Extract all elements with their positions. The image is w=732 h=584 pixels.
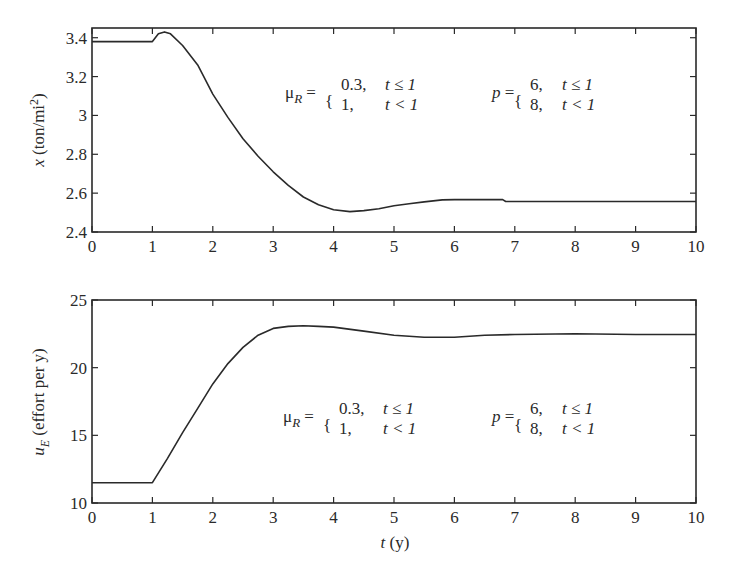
top-plot-y-tick-label: 3.4 [66,29,88,48]
top-plot-y-tick-label: 2.4 [66,223,88,242]
svg-text:8,: 8, [530,95,543,114]
top-plot-x-tick-label: 2 [209,237,218,256]
bottom-plot-y-tick-label: 25 [70,291,87,310]
svg-text:0.3,: 0.3, [339,399,365,418]
svg-text:t ≤ 1: t ≤ 1 [562,399,593,418]
bottom-plot-x-tick-label: 4 [329,508,338,527]
top-plot-x-tick-label: 0 [88,237,97,256]
top-mu-annotation: μR = { 0.3, 1, t ≤ 1 t < 1 [285,75,418,114]
bottom-plot-x-tick-label: 8 [571,508,580,527]
svg-text:p =: p = [491,407,514,426]
top-plot-y-tick-label: 2.8 [66,145,87,164]
svg-text:0.3,: 0.3, [341,75,367,94]
svg-text:1,: 1, [341,95,354,114]
bottom-plot-x-tick-label: 5 [390,508,399,527]
bottom-mu-annotation: μR = { 0.3, 1, t ≤ 1 t < 1 [283,399,416,438]
top-plot-x-tick-label: 1 [148,237,157,256]
bottom-plot-y-tick-label: 10 [70,494,87,513]
svg-text:t < 1: t < 1 [385,95,418,114]
top-plot-y-tick-label: 2.6 [66,184,87,203]
svg-text:t ≤ 1: t ≤ 1 [383,399,414,418]
bottom-plot-y-tick-label: 15 [70,426,87,445]
top-plot: 0123456789102.42.62.833.23.4 [66,28,705,256]
svg-text:p =: p = [491,83,514,102]
x-axis-label: t (y) [381,533,410,552]
top-plot-series-line [92,32,696,212]
svg-text:t < 1: t < 1 [562,419,595,438]
top-plot-y-tick-label: 3 [79,106,88,125]
bottom-plot-x-tick-label: 6 [450,508,459,527]
svg-text:t < 1: t < 1 [562,95,595,114]
top-plot-x-tick-label: 10 [688,237,705,256]
svg-text:{: { [514,92,522,111]
top-y-axis-label: x (ton/mi2) [27,93,48,168]
svg-text:{: { [323,416,331,435]
bottom-y-axis-label: uE (effort per y) [29,348,52,456]
svg-text:t < 1: t < 1 [383,419,416,438]
top-plot-x-tick-label: 6 [450,237,459,256]
svg-text:{: { [514,416,522,435]
svg-text:t ≤ 1: t ≤ 1 [562,75,593,94]
bottom-plot-x-tick-label: 1 [148,508,157,527]
top-plot-x-tick-label: 8 [571,237,580,256]
top-plot-x-tick-label: 4 [329,237,338,256]
top-plot-x-tick-label: 5 [390,237,399,256]
svg-text:6,: 6, [530,75,543,94]
top-p-annotation: p = { 6, 8, t ≤ 1 t < 1 [491,75,595,114]
svg-text:μR =: μR = [283,407,314,430]
bottom-plot-x-tick-label: 10 [688,508,705,527]
bottom-plot-x-tick-label: 3 [269,508,278,527]
svg-text:{: { [325,92,333,111]
top-plot-x-tick-label: 3 [269,237,278,256]
bottom-plot-x-tick-label: 7 [511,508,520,527]
chart-canvas: 0123456789102.42.62.833.23.4 01234567891… [0,0,732,584]
svg-text:1,: 1, [339,419,352,438]
top-plot-y-tick-label: 3.2 [66,68,87,87]
bottom-plot-x-tick-label: 2 [209,508,218,527]
bottom-plot-x-tick-label: 9 [631,508,640,527]
bottom-p-annotation: p = { 6, 8, t ≤ 1 t < 1 [491,399,595,438]
svg-text:8,: 8, [530,419,543,438]
bottom-plot-y-tick-label: 20 [70,359,87,378]
bottom-plot-x-tick-label: 0 [88,508,97,527]
top-plot-x-tick-label: 9 [631,237,640,256]
top-plot-x-tick-label: 7 [511,237,520,256]
svg-text:6,: 6, [530,399,543,418]
svg-text:μR =: μR = [285,83,316,106]
svg-text:t ≤ 1: t ≤ 1 [385,75,416,94]
